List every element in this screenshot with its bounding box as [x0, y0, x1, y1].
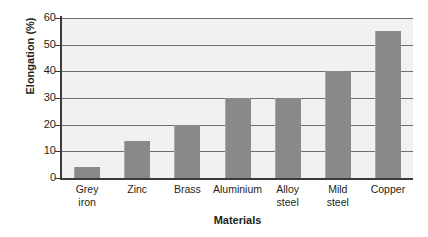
x-tick-label: Aluminium	[212, 183, 262, 196]
x-tick-label-line: steel	[313, 196, 363, 209]
x-tick-label-line: steel	[263, 196, 313, 209]
bar	[74, 167, 100, 178]
y-axis-tick	[55, 125, 61, 126]
x-axis-spine	[60, 178, 413, 180]
y-tick-label: 20	[28, 119, 56, 130]
x-tick-label: Zinc	[112, 183, 162, 196]
y-axis-tick-labels: 0102030405060	[28, 12, 56, 184]
y-axis-tick	[55, 45, 61, 46]
x-tick-label-line: Copper	[371, 183, 405, 195]
y-tick-label: 60	[28, 12, 56, 23]
x-tick-label: Mildsteel	[313, 183, 363, 208]
y-axis-tick	[55, 151, 61, 152]
x-tick-label: Copper	[363, 183, 413, 196]
y-axis-tick	[55, 71, 61, 72]
x-axis-tick-labels: GreyironZincBrassAluminiumAlloysteelMild…	[62, 183, 413, 217]
bar	[375, 31, 401, 178]
y-tick-label: 30	[28, 92, 56, 103]
bar	[325, 71, 351, 178]
x-tick-label: Greyiron	[62, 183, 112, 208]
y-tick-label: 0	[28, 172, 56, 183]
bars-layer	[62, 18, 413, 178]
y-tick-label: 10	[28, 145, 56, 156]
x-tick-label-line: Grey	[76, 183, 99, 195]
x-tick-label: Alloysteel	[263, 183, 313, 208]
y-axis-tick	[55, 98, 61, 99]
bar	[225, 98, 251, 178]
y-axis-tick	[55, 178, 61, 179]
x-tick-label-line: Zinc	[127, 183, 147, 195]
bar	[275, 98, 301, 178]
y-axis-tick	[55, 18, 61, 19]
x-tick-label-line: Mild	[328, 183, 347, 195]
x-axis-title: Materials	[62, 214, 413, 226]
y-tick-label: 40	[28, 65, 56, 76]
x-tick-label-line: iron	[62, 196, 112, 209]
x-tick-label-line: Aluminium	[213, 183, 262, 195]
x-tick-label: Brass	[162, 183, 212, 196]
y-tick-label: 50	[28, 39, 56, 50]
bar-chart: Elongation (%) 0102030405060 GreyironZin…	[0, 0, 428, 237]
bar	[124, 141, 150, 178]
x-tick-label-line: Brass	[174, 183, 201, 195]
bar	[174, 125, 200, 178]
x-tick-label-line: Alloy	[276, 183, 299, 195]
